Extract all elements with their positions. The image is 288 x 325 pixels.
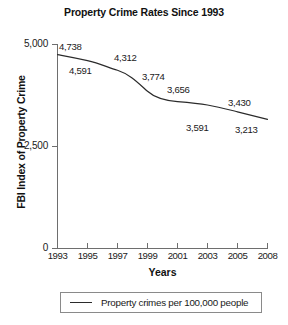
data-label-2008: 3,213 — [235, 124, 258, 135]
chart-legend: Property crimes per 100,000 people — [60, 292, 262, 313]
data-label-1999: 3,774 — [142, 71, 165, 82]
x-tick-label-2005: 2005 — [221, 250, 255, 261]
data-label-2001: 3,656 — [167, 84, 190, 95]
y-tick-label-5000: 5,000 — [2, 38, 48, 49]
y-tick-label-2500: 2,500 — [2, 140, 48, 151]
x-axis-title: Years — [57, 266, 268, 278]
legend-line-swatch — [70, 302, 92, 303]
x-tick-label-1997: 1997 — [101, 250, 135, 261]
data-label-1993: 4,738 — [59, 41, 82, 52]
data-label-2003: 3,591 — [186, 122, 209, 133]
data-label-2005: 3,430 — [228, 97, 251, 108]
legend-entry-label: Property crimes per 100,000 people — [101, 297, 248, 308]
data-label-1995: 4,591 — [69, 65, 92, 76]
data-label-1997: 4,312 — [114, 52, 137, 63]
x-tick-label-2003: 2003 — [191, 250, 225, 261]
x-tick-label-1993: 1993 — [41, 250, 75, 261]
x-tick-label-1999: 1999 — [131, 250, 165, 261]
x-tick-label-2001: 2001 — [161, 250, 195, 261]
x-tick-label-2008: 2008 — [251, 250, 285, 261]
x-tick-label-1995: 1995 — [71, 250, 105, 261]
property-crime-chart: Property Crime Rates Since 1993 FBI Inde… — [0, 0, 288, 325]
